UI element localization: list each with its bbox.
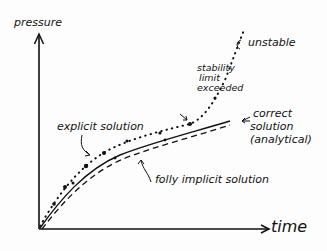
unstable-annotation: unstable	[248, 37, 296, 49]
explicit-annotation: explicit solution	[57, 121, 144, 133]
y-axis	[35, 34, 44, 229]
implicit-leader-line	[141, 160, 151, 182]
unstable-bracket-icon	[237, 40, 241, 49]
diagram-canvas: pressure time stability limit exceeded u…	[0, 0, 327, 251]
implicit-annotation: folly implicit solution	[155, 174, 269, 186]
correct-annotation-line2: solution	[250, 121, 294, 133]
x-axis	[39, 225, 269, 233]
y-axis-label: pressure	[14, 17, 62, 29]
correct-leader-arrow-icon	[242, 117, 250, 123]
correct-annotation-line3: (analytical)	[250, 134, 312, 146]
x-axis-label: time	[271, 219, 307, 236]
stability-leader-arrow-icon	[180, 114, 187, 120]
correct-annotation-line1: correct	[253, 108, 292, 120]
explicit-leader-line	[81, 135, 90, 155]
stability-annotation-line3: exceeded	[197, 83, 243, 93]
